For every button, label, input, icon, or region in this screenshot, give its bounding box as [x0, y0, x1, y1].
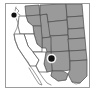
state-nebraska	[68, 28, 85, 39]
state-wyoming	[48, 20, 68, 36]
state-texas	[68, 60, 87, 83]
state-north-dakota	[66, 4, 83, 17]
state-colorado	[50, 35, 69, 52]
state-south-dakota	[67, 16, 84, 29]
state-washington	[25, 5, 40, 16]
border-region-shading	[51, 71, 68, 81]
state-kansas	[68, 38, 86, 51]
map-frame	[5, 3, 90, 88]
map-graphic	[6, 4, 89, 87]
map-figure	[0, 0, 97, 94]
marker-southwest[interactable]	[48, 55, 54, 61]
state-utah	[42, 37, 51, 52]
marker-northwest[interactable]	[11, 12, 16, 17]
state-oklahoma	[69, 50, 87, 61]
